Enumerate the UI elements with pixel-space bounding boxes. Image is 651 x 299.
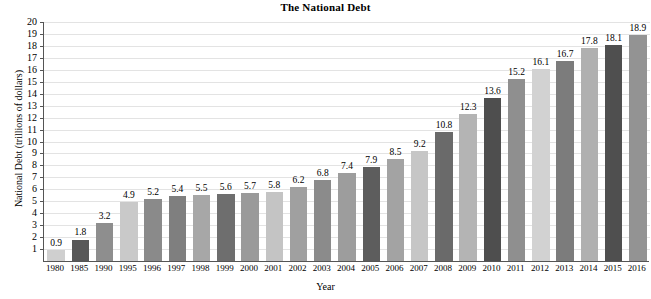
national-debt-bar-chart: The National Debt National Debt (trillio… — [0, 0, 651, 299]
bar[interactable] — [484, 98, 501, 261]
y-tick-label: 12 — [0, 113, 37, 123]
x-tick-label: 2015 — [601, 264, 625, 273]
y-tick-mark — [40, 130, 44, 131]
x-tick-label: 1999 — [213, 264, 237, 273]
bar[interactable] — [581, 48, 598, 261]
x-tick-label: 1998 — [188, 264, 212, 273]
bar-value-label: 12.3 — [460, 103, 477, 113]
y-tick-label: 18 — [0, 41, 37, 51]
bar[interactable] — [120, 202, 137, 261]
y-tick-mark — [40, 153, 44, 154]
x-tick-label: 1980 — [43, 264, 67, 273]
bar[interactable] — [363, 167, 380, 261]
x-tick-label: 2001 — [261, 264, 285, 273]
y-tick-label: 11 — [0, 125, 37, 135]
y-tick-label: 20 — [0, 17, 37, 27]
bar-value-label: 15.2 — [508, 68, 525, 78]
bar-value-label: 0.9 — [50, 239, 62, 249]
y-tick-label: 6 — [0, 184, 37, 194]
x-tick-label: 2010 — [479, 264, 503, 273]
y-tick-label: 14 — [0, 89, 37, 99]
y-tick-label: 15 — [0, 77, 37, 87]
y-tick-mark — [40, 70, 44, 71]
x-tick-label: 2005 — [358, 264, 382, 273]
bar[interactable] — [266, 192, 283, 261]
y-tick-mark — [40, 189, 44, 190]
bar[interactable] — [96, 223, 113, 261]
x-tick-label: 2000 — [237, 264, 261, 273]
bar-value-label: 18.9 — [630, 24, 647, 34]
y-tick-label: 10 — [0, 137, 37, 147]
y-tick-mark — [40, 201, 44, 202]
chart-title: The National Debt — [0, 1, 651, 13]
bar-value-label: 16.1 — [533, 58, 550, 68]
bar[interactable] — [411, 151, 428, 261]
bar[interactable] — [169, 196, 186, 261]
x-tick-label: 2009 — [455, 264, 479, 273]
bar[interactable] — [144, 199, 161, 261]
bar[interactable] — [387, 159, 404, 261]
y-tick-label: 3 — [0, 220, 37, 230]
plot-area: 0.91.83.24.95.25.45.55.65.75.86.26.87.47… — [43, 22, 650, 261]
bar[interactable] — [217, 194, 234, 261]
gridline — [44, 34, 650, 35]
bar[interactable] — [241, 193, 258, 261]
y-tick-mark — [40, 249, 44, 250]
x-axis-label: Year — [0, 281, 651, 292]
y-tick-label: 16 — [0, 65, 37, 75]
bar[interactable] — [629, 35, 646, 261]
x-tick-label: 2006 — [382, 264, 406, 273]
y-tick-mark — [40, 213, 44, 214]
bar-value-label: 17.8 — [581, 37, 598, 47]
x-tick-label: 2013 — [552, 264, 576, 273]
bar-value-label: 13.6 — [484, 87, 501, 97]
x-axis-line — [43, 261, 649, 262]
y-tick-mark — [40, 58, 44, 59]
x-tick-label: 2002 — [285, 264, 309, 273]
bar-value-label: 5.2 — [147, 188, 159, 198]
bar-value-label: 10.8 — [436, 121, 453, 131]
y-axis-tick-labels: 1234567891011121314151617181920 — [0, 22, 39, 261]
bar[interactable] — [290, 187, 307, 261]
y-tick-label: 8 — [0, 160, 37, 170]
bar[interactable] — [193, 195, 210, 261]
bar[interactable] — [459, 114, 476, 261]
x-tick-label: 2008 — [431, 264, 455, 273]
bar[interactable] — [435, 132, 452, 261]
x-tick-label: 1985 — [67, 264, 91, 273]
gridline — [44, 22, 650, 23]
x-tick-label: 1990 — [91, 264, 115, 273]
bar[interactable] — [338, 173, 355, 261]
x-tick-label: 2014 — [576, 264, 600, 273]
x-tick-label: 1997 — [164, 264, 188, 273]
y-tick-label: 19 — [0, 29, 37, 39]
bar[interactable] — [556, 61, 573, 261]
y-tick-mark — [40, 82, 44, 83]
bar-value-label: 9.2 — [414, 140, 426, 150]
x-tick-label: 2007 — [407, 264, 431, 273]
bar-value-label: 8.5 — [390, 148, 402, 158]
bar[interactable] — [532, 69, 549, 261]
y-tick-mark — [40, 34, 44, 35]
bar-value-label: 4.9 — [123, 191, 135, 201]
y-tick-label: 9 — [0, 148, 37, 158]
bar-value-label: 5.4 — [171, 185, 183, 195]
bar[interactable] — [72, 240, 89, 262]
bar-value-label: 6.8 — [317, 169, 329, 179]
bar-value-label: 7.4 — [341, 162, 353, 172]
y-tick-mark — [40, 94, 44, 95]
y-tick-mark — [40, 46, 44, 47]
bar[interactable] — [508, 79, 525, 261]
bar[interactable] — [605, 45, 622, 261]
y-tick-mark — [40, 225, 44, 226]
bar-value-label: 5.8 — [268, 181, 280, 191]
bar-value-label: 7.9 — [365, 156, 377, 166]
bar[interactable] — [314, 180, 331, 261]
y-tick-label: 2 — [0, 232, 37, 242]
y-tick-mark — [40, 165, 44, 166]
y-tick-mark — [40, 22, 44, 23]
y-tick-label: 13 — [0, 101, 37, 111]
x-tick-label: 2003 — [310, 264, 334, 273]
bar[interactable] — [47, 250, 64, 261]
x-tick-label: 2011 — [504, 264, 528, 273]
